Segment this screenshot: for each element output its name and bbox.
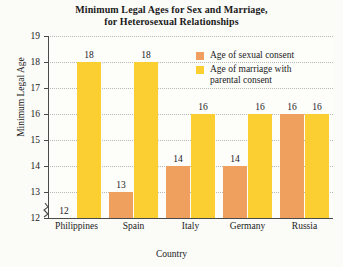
bar[interactable]	[191, 114, 215, 218]
bar[interactable]	[280, 114, 304, 218]
bar-value-label: 18	[77, 50, 101, 60]
bar-value-label: 16	[305, 102, 329, 112]
bar-value-label: 16	[191, 102, 215, 112]
bar-value-label: 12	[52, 206, 76, 216]
bar-value-label: 14	[166, 154, 190, 164]
chart-title-line-1: Minimum Legal Ages for Sex and Marriage,	[0, 4, 343, 16]
bar[interactable]	[134, 62, 158, 218]
bar-value-label: 16	[248, 102, 272, 112]
legend-label: Age of marriage withparental consent	[210, 64, 292, 86]
x-axis-tick-label: Spain	[123, 221, 145, 231]
bar-value-label: 14	[223, 154, 247, 164]
y-axis-tick-labels: 1213141516171819	[0, 36, 46, 218]
y-axis-tick-label: 17	[31, 83, 41, 93]
y-axis-line	[48, 36, 49, 218]
bar-value-label: 13	[109, 180, 133, 190]
bar-group: 1218	[52, 36, 101, 218]
bar-value-label: 18	[134, 50, 158, 60]
y-axis-tick-label: 12	[31, 213, 41, 223]
axis-break-icon	[42, 202, 55, 218]
legend-swatch-icon	[196, 66, 204, 74]
bar-group: 1318	[109, 36, 158, 218]
legend-swatch-icon	[196, 52, 204, 60]
x-axis-label: Country	[0, 249, 343, 259]
legend-item[interactable]: Age of marriage withparental consent	[196, 64, 338, 86]
chart-title-line-2: for Heterosexual Relationships	[0, 16, 343, 28]
bar[interactable]	[166, 166, 190, 218]
bar-value-label: 16	[280, 102, 304, 112]
y-axis-tick-label: 18	[31, 57, 41, 67]
x-axis-tick-labels: PhilippinesSpainItalyGermanyRussia	[48, 221, 333, 235]
bar[interactable]	[248, 114, 272, 218]
bar[interactable]	[77, 62, 101, 218]
x-axis-tick-label: Russia	[292, 221, 317, 231]
y-axis-tick-label: 14	[31, 161, 41, 171]
y-axis-tick-label: 13	[31, 187, 41, 197]
y-axis-tick-label: 19	[31, 31, 41, 41]
y-axis-tick-label: 16	[31, 109, 41, 119]
chart-figure: Minimum Legal Ages for Sex and Marriage,…	[0, 0, 343, 267]
bar[interactable]	[109, 192, 133, 218]
bar[interactable]	[223, 166, 247, 218]
legend-label: Age of sexual consent	[210, 50, 294, 61]
x-axis-tick-label: Germany	[230, 221, 265, 231]
bar[interactable]	[305, 114, 329, 218]
x-axis-tick-label: Philippines	[55, 221, 98, 231]
chart-legend: Age of sexual consentAge of marriage wit…	[196, 50, 338, 89]
legend-item[interactable]: Age of sexual consent	[196, 50, 338, 61]
y-axis-tick-label: 15	[31, 135, 41, 145]
chart-title: Minimum Legal Ages for Sex and Marriage,…	[0, 4, 343, 27]
x-axis-line	[48, 218, 333, 219]
x-axis-tick-label: Italy	[182, 221, 199, 231]
